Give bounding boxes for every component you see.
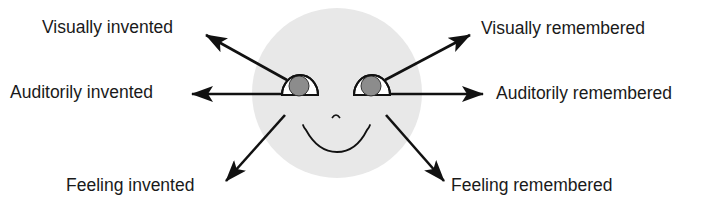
label-auditorily-remembered: Auditorily remembered [496,85,672,103]
label-feeling-remembered: Feeling remembered [451,177,612,195]
label-feeling-invented: Feeling invented [66,177,194,195]
label-visually-remembered: Visually remembered [481,20,645,38]
left-iris [289,76,309,96]
right-iris [361,76,381,96]
label-visually-invented: Visually invented [42,19,173,37]
label-auditorily-invented: Auditorily invented [10,84,153,102]
